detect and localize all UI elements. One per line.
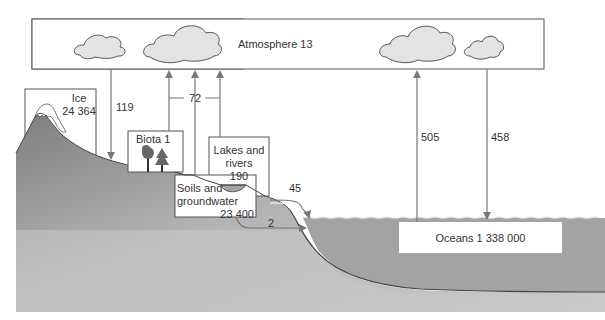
lakes-name-1: Lakes and [210,144,268,157]
atmosphere-label: Atmosphere 13 [238,38,313,51]
ice-label: Ice 24 364 [57,92,101,118]
flux-458-label: 458 [491,131,509,144]
flux-72-label: 72 [189,92,201,105]
soils-label: Soils and groundwater 23 400 [177,182,254,221]
flux-2-label: 2 [268,217,274,230]
ice-name: Ice [57,92,101,105]
soils-name-1: Soils and [177,182,254,195]
water-cycle-diagram: Atmosphere 13 Ice 24 364 119 72 Biota 1 … [0,0,605,320]
soils-name-2: groundwater [177,195,254,208]
lakes-name-2: rivers [210,157,268,170]
flux-119-label: 119 [116,101,134,114]
oceans-label: Oceans 1 338 000 [399,232,562,245]
ice-value: 24 364 [57,105,101,118]
flux-505-label: 505 [421,131,439,144]
lakes-label: Lakes and rivers 190 [210,144,268,183]
flux-45-label: 45 [289,182,301,195]
biota-label: Biota 1 [136,133,170,146]
soils-value: 23 400 [177,208,254,221]
